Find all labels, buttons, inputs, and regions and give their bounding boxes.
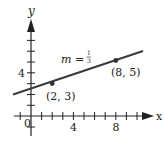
point-label-2-3: (2, 3) xyxy=(46,90,76,103)
slope-annotation: m = 1 3 xyxy=(61,49,91,66)
point-8-5 xyxy=(113,58,118,63)
y-axis-arrow-icon xyxy=(27,19,35,32)
x-axis-arrow-icon xyxy=(142,112,154,120)
x-tick-label-8: 8 xyxy=(113,121,120,134)
slope-denominator: 3 xyxy=(87,57,91,64)
x-tick-label-4: 4 xyxy=(70,121,77,134)
origin-label: 0 xyxy=(24,117,31,130)
y-tick-label-4: 4 xyxy=(18,67,25,80)
slope-m-label: m = xyxy=(61,53,84,66)
slope-numerator: 1 xyxy=(87,49,91,56)
coordinate-graph: y x 0 4 8 4 (2, 3) (8, 5) m = 1 3 xyxy=(0,0,165,145)
point-2-3 xyxy=(50,81,55,86)
point-label-8-5: (8, 5) xyxy=(111,66,141,79)
x-axis-label: x xyxy=(156,110,163,123)
y-axis-label: y xyxy=(27,4,35,18)
x-axis xyxy=(14,112,154,120)
